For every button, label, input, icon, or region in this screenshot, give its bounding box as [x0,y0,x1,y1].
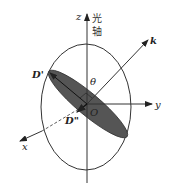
z-axis-label: z [75,11,82,22]
theta-label: θ [90,76,96,87]
k-label: k [150,35,157,46]
optic-axis-label-2: 轴 [92,25,102,37]
index-ellipsoid-diagram: z 光 轴 k y x O θ D' D" [0,0,173,191]
x-axis [20,131,42,141]
x-axis-label: x [22,141,28,152]
y-axis-label: y [154,99,161,110]
d-prime-label: D' [31,69,44,80]
origin-label: O [90,107,98,118]
k-vector [87,40,148,104]
d-double-prime-label: D" [64,115,79,126]
optic-axis-label-1: 光 [92,12,102,24]
